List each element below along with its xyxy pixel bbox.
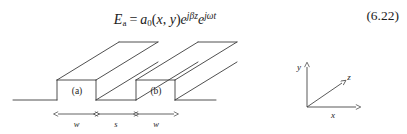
axis-label-x: x (330, 110, 335, 120)
dimension-label-rib-width-b: w (153, 119, 159, 129)
waveguide-b-label: (b) (150, 86, 161, 97)
rib-b-top-left-receding-edge (136, 42, 198, 80)
rib-b-top-right-receding-edge (175, 42, 237, 80)
rib-a-bottom-right-receding-edge (96, 62, 158, 100)
equation-row: Ea=a0(x, y)ejβzejωt (6.22) (0, 6, 407, 32)
waveguide-figure: (a) (b) w s w (0, 34, 407, 134)
axis-label-y: y (296, 62, 301, 72)
dimension-label-gap-separation: s (114, 119, 118, 129)
equation-exp-power-1: jβz (187, 11, 198, 21)
equation-equals: = (126, 12, 140, 27)
axis-z-arrow (307, 83, 342, 107)
gap-floor-receding-edge (136, 62, 198, 100)
rib-a-top-right-receding-edge (96, 42, 158, 80)
equation-exp-power-2: jωt (204, 11, 216, 21)
rib-b-bottom-right-receding-edge (175, 62, 237, 100)
waveguide-a-label: (a) (72, 86, 83, 97)
rib-a-top-left-receding-edge (57, 42, 119, 80)
equation-expression: Ea=a0(x, y)ejβzejωt (0, 6, 330, 33)
figure-page: Ea=a0(x, y)ejβzejωt (6.22) (0, 0, 407, 134)
equation-comma: , (163, 12, 170, 27)
equation-number: (6.22) (366, 6, 399, 26)
waveguide-structure (13, 42, 237, 100)
dimension-label-rib-width-a: w (74, 119, 80, 129)
axis-label-z: z (346, 72, 351, 82)
